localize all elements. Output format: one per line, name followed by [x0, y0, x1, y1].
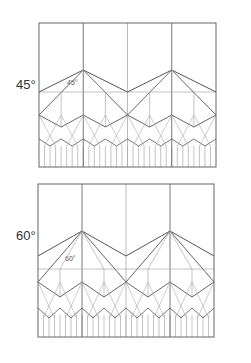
- crease-pattern-svg: [0, 0, 251, 363]
